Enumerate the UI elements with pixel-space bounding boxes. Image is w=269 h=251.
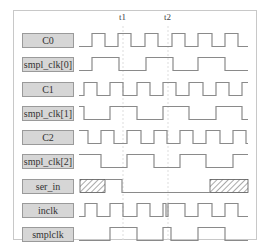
waveform-smplclk	[79, 228, 248, 241]
waveform-smpl-clk-2-	[79, 155, 248, 168]
waveform-ser-in	[105, 180, 210, 193]
undefined-data-region	[210, 180, 248, 193]
waveform-smpl-clk-0-	[79, 58, 248, 71]
waveform-c2	[79, 131, 248, 144]
waveform-smpl-clk-1-	[79, 107, 248, 120]
waveform-c0	[79, 34, 248, 47]
waveform-canvas	[0, 0, 269, 251]
undefined-data-region	[80, 180, 105, 193]
waveform-inclk	[79, 204, 248, 217]
waveform-c1	[79, 83, 248, 96]
